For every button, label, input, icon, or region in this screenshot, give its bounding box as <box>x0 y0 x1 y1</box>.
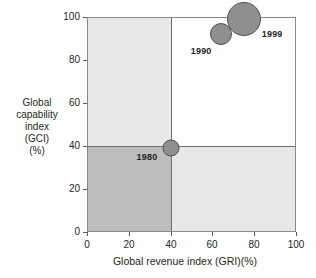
y-axis-title-line: (%) <box>0 145 74 157</box>
y-tick-mark <box>83 146 87 147</box>
bubble-1980[interactable] <box>162 140 179 157</box>
x-axis-title: Global revenue index (GRI)(%) <box>60 255 310 267</box>
y-tick-label: 80 <box>54 54 80 65</box>
quadrant-divider-vertical <box>171 18 172 231</box>
y-axis-title-line: index <box>0 121 74 133</box>
quadrant-bottom-left <box>88 146 171 231</box>
y-tick-mark <box>83 189 87 190</box>
quadrant-top-left <box>88 18 171 146</box>
y-axis-title-line: Global <box>0 97 74 109</box>
x-tick-label: 0 <box>74 239 100 250</box>
bubble-label-1999: 1999 <box>262 29 283 39</box>
quadrant-bottom-right <box>171 146 295 231</box>
bubble-label-1980: 1980 <box>137 152 158 162</box>
y-tick-mark <box>83 103 87 104</box>
y-tick-mark <box>83 17 87 18</box>
x-tick-label: 40 <box>158 239 184 250</box>
x-tick-label: 20 <box>116 239 142 250</box>
y-tick-label: 0 <box>54 226 80 237</box>
bubble-chart: 020406080100 020406080100 198019901999 G… <box>0 0 316 278</box>
x-tick-label: 100 <box>283 239 309 250</box>
x-tick-label: 60 <box>199 239 225 250</box>
x-tick-label: 80 <box>241 239 267 250</box>
y-axis-title-line: capability <box>0 109 74 121</box>
x-tick-mark <box>87 232 88 236</box>
y-axis-title-line: (GCI) <box>0 133 74 145</box>
y-tick-label: 20 <box>54 183 80 194</box>
x-tick-mark <box>296 232 297 236</box>
x-tick-mark <box>212 232 213 236</box>
x-tick-mark <box>171 232 172 236</box>
x-tick-mark <box>129 232 130 236</box>
quadrant-divider-horizontal <box>88 146 295 147</box>
bubble-label-1990: 1990 <box>191 46 212 56</box>
y-tick-mark <box>83 60 87 61</box>
bubble-1999[interactable] <box>227 2 261 36</box>
y-tick-label: 100 <box>54 11 80 22</box>
x-tick-mark <box>254 232 255 236</box>
y-axis-title: Globalcapabilityindex(GCI)(%) <box>0 97 74 157</box>
